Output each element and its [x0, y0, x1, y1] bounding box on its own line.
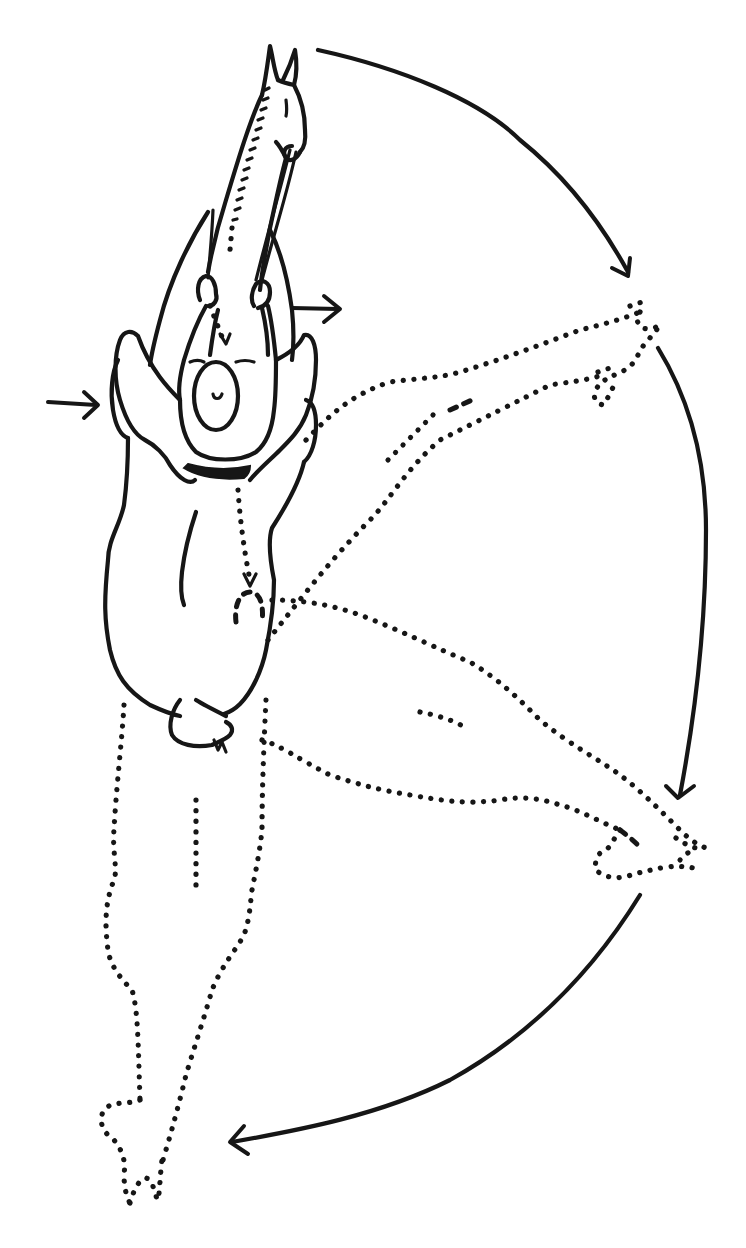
leg-aid-indicator [236, 490, 263, 622]
arc-arrow-1-icon [318, 50, 630, 276]
direction-arrow-right-icon [292, 296, 340, 322]
illustration-canvas [0, 0, 746, 1248]
horse-body [105, 438, 304, 752]
rider [112, 276, 316, 482]
turn-on-forehand-illustration [0, 0, 746, 1248]
arc-arrow-3-icon [230, 895, 640, 1154]
horse-head-neck [208, 46, 305, 290]
rider-head [194, 362, 238, 430]
hindquarters-intermediate-position-2 [262, 600, 706, 878]
arc-arrow-2-icon [658, 348, 706, 798]
left-leg-pressure-arrow-icon [48, 392, 98, 418]
hindquarters-intermediate-position-1 [268, 302, 660, 640]
